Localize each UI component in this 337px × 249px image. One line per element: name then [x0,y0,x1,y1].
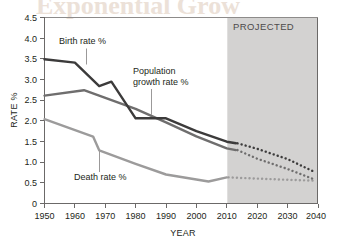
series-line-death-rate [45,119,227,181]
y-axis-title: RATE % [9,92,19,128]
x-axis-title: YEAR [170,228,196,238]
y-tick-label-2.5: 2.5 [24,95,37,105]
x-tick-label-1970: 1970 [95,211,115,221]
x-tick-label-2000: 2000 [186,211,206,221]
x-axis-tick-labels: 1950 1960 1970 1980 1990 2000 2010 2020 … [34,211,326,221]
y-axis-tick-labels: 4.5 4.0 3.5 3.0 2.5 2.0 1.5 1.0 0.5 0 [24,13,37,209]
x-tick-label-1960: 1960 [65,211,85,221]
y-tick-label-3.5: 3.5 [24,54,37,64]
death-rate-label: Death rate % [74,172,127,182]
y-tick-label-4.0: 4.0 [24,34,37,44]
population-growth-label-line1: Population [133,66,176,76]
y-axis-ticks [40,18,45,204]
population-growth-label-line2: growth rate % [133,77,189,87]
y-tick-label-0: 0 [32,199,37,209]
x-tick-label-1980: 1980 [126,211,146,221]
y-tick-label-3.0: 3.0 [24,75,37,85]
y-tick-label-4.5: 4.5 [24,13,37,23]
annotation-death-rate: Death rate % [74,151,127,183]
y-tick-label-1.0: 1.0 [24,157,37,167]
series-line-population-growth [45,90,236,150]
population-rate-line-chart: Exponential Grow 4.5 4.0 [0,0,337,249]
x-tick-label-1950: 1950 [34,211,54,221]
y-tick-label-1.5: 1.5 [24,137,37,147]
annotation-population-growth: Population growth rate % [133,66,189,115]
projected-region-label: PROJECTED [233,21,294,32]
y-tick-label-0.5: 0.5 [24,178,37,188]
birth-rate-label: Birth rate % [59,36,106,46]
x-tick-label-1990: 1990 [156,211,176,221]
y-tick-label-2.0: 2.0 [24,116,37,126]
x-tick-label-2020: 2020 [247,211,267,221]
chart-container: Exponential Grow 4.5 4.0 [0,0,337,249]
x-axis-ticks [45,204,319,209]
x-tick-label-2010: 2010 [217,211,237,221]
x-tick-label-2040: 2040 [306,211,326,221]
annotation-birth-rate: Birth rate % [59,36,106,65]
x-tick-label-2030: 2030 [278,211,298,221]
